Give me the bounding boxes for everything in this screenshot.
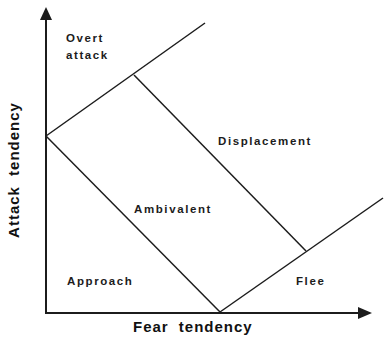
region-label-approach: Approach bbox=[67, 273, 133, 290]
region-label-overt-line2: attack bbox=[66, 47, 126, 64]
diagram-svg bbox=[0, 0, 392, 344]
region-label-ambivalent: Ambivalent bbox=[134, 201, 212, 218]
boundary-lower-diagonal bbox=[220, 198, 383, 312]
region-label-flee: Flee bbox=[296, 273, 325, 290]
region-label-overt-line1: Overt bbox=[66, 30, 126, 47]
boundary-right-cross bbox=[134, 75, 306, 251]
y-axis-label: Attack tendency bbox=[5, 102, 22, 238]
x-axis-label: Fear tendency bbox=[133, 318, 253, 335]
y-axis-arrow-icon bbox=[40, 7, 52, 20]
x-axis-arrow-icon bbox=[358, 307, 372, 319]
region-label-overt-attack: Overt attack bbox=[66, 30, 126, 64]
region-label-displacement: Displacement bbox=[218, 133, 312, 150]
